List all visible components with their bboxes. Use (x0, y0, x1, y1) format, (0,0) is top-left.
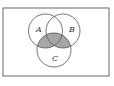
venn-diagram: A B C (0, 0, 114, 86)
label-c: C (52, 54, 58, 63)
label-b: B (68, 25, 75, 34)
label-a: A (35, 25, 42, 34)
